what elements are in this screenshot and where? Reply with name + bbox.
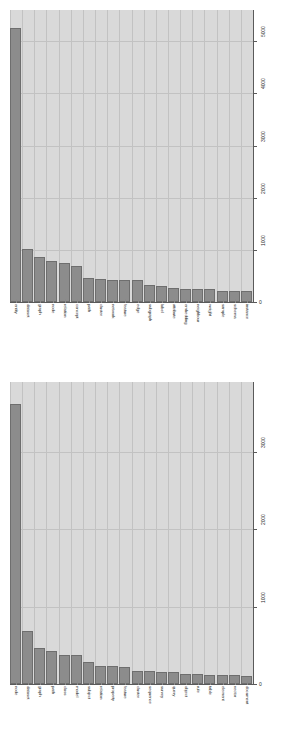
x-axis-tick-label: sample [221,304,225,317]
bar [34,257,45,302]
x-tick-mark [150,299,151,303]
x-tick-mark [77,681,78,685]
y-axis-tick: 0 [254,680,287,689]
bar [71,655,82,684]
y-axis-tick-label: 0 [259,298,262,307]
x-axis-tick-label: element [221,686,225,701]
x-axis-tick-label: weight [208,304,212,316]
x-axis-tick-label: subgraph [148,304,152,321]
x-axis-tick-label: schema [233,304,237,318]
x-tick-mark [198,681,199,685]
y-axis-tick-label: 0 [259,680,262,689]
x-tick-mark [138,299,139,303]
x-tick-mark [28,299,29,303]
x-tick-mark [235,299,236,303]
x-tick-mark [113,681,114,685]
x-axis-tick-label: rule [196,686,200,693]
x-tick-mark [65,681,66,685]
y-tick-mark [254,250,257,251]
x-axis-tick-label: query [172,686,176,696]
x-axis-tick-label: subject [87,686,91,699]
x-tick-mark [113,299,114,303]
x-axis-tick-label: cluster [99,304,103,316]
bar [46,651,57,684]
y-axis-tick-label: 2000 [259,514,268,525]
x-tick-mark [138,681,139,685]
x-tick-mark [89,299,90,303]
x-tick-mark [16,299,17,303]
x-axis-tick-label: document [245,686,249,704]
x-axis-tick-label: entity [14,304,18,314]
x-axis-tick-label: object [184,686,188,697]
y-axis-tick-label: 5000 [259,27,268,38]
x-axis-tick-label: embedding [184,304,188,324]
bar [59,263,70,302]
x-tick-mark [89,681,90,685]
x-tick-mark [162,681,163,685]
y-tick-mark [254,452,257,453]
x-axis-tick-label: class [63,686,67,695]
x-axis-tick-label: relation [99,686,103,699]
x-axis-tick-label: attribute [172,304,176,319]
bar [59,655,70,684]
plot-area-top [10,10,253,302]
bar-chart-bottom: 0100020003000 nodedatasetgraphpathclassm… [0,370,287,739]
x-tick-mark [28,681,29,685]
x-axis-tick-label: instance [245,304,249,319]
y-axis-line-top [253,10,254,303]
bar-chart-top: 010002000300040005000 entitydatasetgraph… [0,0,287,370]
x-tick-mark [162,299,163,303]
x-tick-mark [186,299,187,303]
y-axis-tick: 5000 [254,37,287,46]
x-axis-tick-label: graph [38,304,42,314]
x-axis-tick-label: sequence [148,686,152,704]
bar [71,266,82,303]
x-tick-mark [77,299,78,303]
x-tick-mark [125,681,126,685]
x-axis-tick-label: feature [123,304,127,317]
x-tick-mark [235,681,236,685]
x-axis-tick-label: model [75,686,79,697]
y-axis-tick-label: 4000 [259,79,268,90]
x-axis-tick-label: neighbour [196,304,200,322]
y-tick-mark [254,146,257,147]
y-tick-mark [254,41,257,42]
x-axis-tick-label: relation [63,304,67,317]
x-tick-mark [150,681,151,685]
x-tick-mark [210,299,211,303]
y-axis-tick: 2000 [254,525,287,534]
x-tick-mark [223,681,224,685]
x-axis-tick-label: path [87,304,91,312]
x-axis-tick-label: feature [123,686,127,699]
y-axis-tick: 3000 [254,448,287,457]
x-axis-tick-label: table [208,686,212,695]
x-axis-tick-label: concept [75,304,79,318]
x-tick-mark [125,299,126,303]
x-tick-mark [65,299,66,303]
bar [46,261,57,302]
y-tick-mark [254,93,257,94]
x-axis-tick-label: node [14,686,18,695]
x-axis-line-top [10,302,253,303]
x-tick-mark [174,299,175,303]
plot-area-bottom [10,382,253,684]
y-axis-tick-label: 2000 [259,183,268,194]
x-tick-mark [247,299,248,303]
y-tick-mark [254,302,257,303]
bar [22,631,33,684]
bar [10,28,21,302]
x-tick-mark [247,681,248,685]
y-tick-mark [254,607,257,608]
bar [34,648,45,684]
x-tick-mark [40,681,41,685]
x-axis-tick-label: vector [233,686,237,697]
x-axis-tick-label: network [111,304,115,318]
y-axis-tick-label: 1000 [259,592,268,603]
x-axis-tick-label: edge [136,304,140,313]
bar [22,249,33,302]
y-axis-tick-label: 3000 [259,131,268,142]
x-tick-mark [174,681,175,685]
x-axis-tick-label: graph [38,686,42,696]
x-tick-mark [198,299,199,303]
x-axis-tick-label: path [51,686,55,694]
